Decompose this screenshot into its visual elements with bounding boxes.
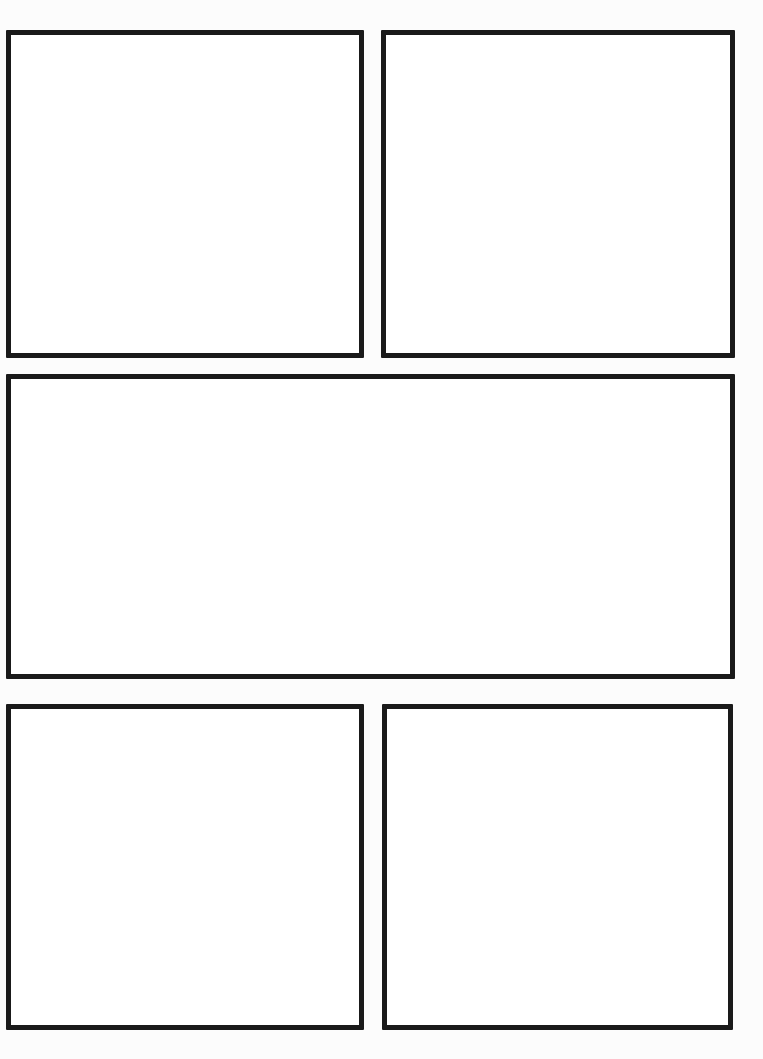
comic-page [0,0,763,1059]
panel-art-area-2[interactable] [386,35,730,353]
comic-panel-5[interactable] [382,704,733,1030]
comic-panel-1[interactable] [6,30,364,358]
panel-art-area-1[interactable] [11,35,359,353]
comic-panel-2[interactable] [381,30,735,358]
comic-panel-3[interactable] [6,374,735,679]
panel-art-area-3[interactable] [11,379,730,674]
panel-art-area-4[interactable] [11,709,359,1025]
panel-art-area-5[interactable] [387,709,728,1025]
comic-panel-4[interactable] [6,704,364,1030]
